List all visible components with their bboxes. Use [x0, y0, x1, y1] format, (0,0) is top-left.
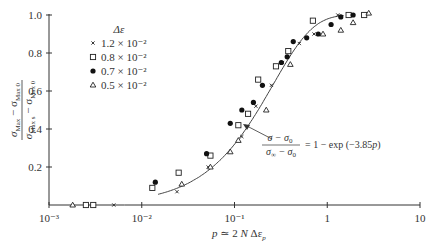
square-marker-icon: [150, 185, 155, 190]
annotation-denominator: σ∞ − σ0: [266, 146, 297, 159]
y-axis-title: σMax − σMax 0 σMax s − σMax 0: [7, 80, 37, 140]
annotation-numerator: σ − σ0: [267, 132, 293, 145]
square-marker-icon: [91, 202, 96, 207]
filled-circle-marker-icon: [228, 121, 233, 126]
series-cross: [112, 13, 352, 206]
square-marker-icon: [256, 77, 261, 82]
square-marker-icon: [236, 123, 241, 128]
x-tick-label: 10: [415, 212, 427, 224]
y-tick-label: 1.0: [28, 9, 42, 21]
y-axis-title-numerator: σMax − σMax 0: [7, 83, 22, 138]
legend-label: 0.5 × 10⁻²: [101, 79, 147, 91]
cross-marker-icon: [254, 105, 257, 108]
y-axis-title-denominator: σMax s − σMax 0: [22, 80, 37, 139]
square-marker-icon: [310, 18, 315, 23]
legend: Δε1.2 × 10⁻²0.8 × 10⁻²0.7 × 10⁻²0.5 × 10…: [90, 23, 147, 91]
square-marker-icon: [346, 12, 351, 17]
square-marker-icon: [90, 54, 95, 59]
square-marker-icon: [176, 170, 181, 175]
filled-circle-marker-icon: [90, 68, 95, 73]
x-tick-label: 10⁻²: [132, 212, 153, 224]
filled-circle-marker-icon: [351, 12, 356, 17]
legend-label: 1.2 × 10⁻²: [101, 37, 147, 49]
x-axis-title: p ≃ 2 N Δεp: [211, 227, 266, 242]
square-marker-icon: [83, 202, 88, 207]
square-marker-icon: [286, 49, 291, 54]
legend-entry: 0.7 × 10⁻²: [90, 65, 147, 77]
filled-circle-marker-icon: [239, 107, 244, 112]
filled-circle-marker-icon: [153, 180, 158, 185]
chart: 10⁻³10⁻²10⁻¹1100.20.40.60.81.0 Δε1.2 × 1…: [0, 0, 430, 244]
series-filled-circle: [153, 12, 356, 184]
legend-label: 0.8 × 10⁻²: [101, 51, 147, 63]
x-tick-label: 1: [325, 212, 331, 224]
filled-circle-marker-icon: [304, 35, 309, 40]
triangle-marker-icon: [350, 20, 356, 25]
filled-circle-marker-icon: [204, 151, 209, 156]
triangle-marker-icon: [90, 82, 96, 87]
cross-marker-icon: [312, 32, 315, 35]
x-tick-label: 10⁻¹: [224, 212, 244, 224]
legend-label: 0.7 × 10⁻²: [101, 65, 147, 77]
axes: 10⁻³10⁻²10⁻¹1100.20.40.60.81.0: [28, 9, 426, 224]
square-marker-icon: [273, 64, 278, 69]
filled-circle-marker-icon: [260, 83, 265, 88]
triangle-marker-icon: [320, 31, 326, 36]
filled-circle-marker-icon: [285, 54, 290, 59]
triangle-marker-icon: [288, 62, 294, 67]
triangle-marker-icon: [236, 138, 242, 143]
annotation-rhs: = 1 − exp (−3.85p): [305, 139, 381, 151]
filled-circle-marker-icon: [328, 22, 333, 27]
y-tick-label: 0.8: [28, 47, 42, 59]
triangle-marker-icon: [338, 27, 344, 32]
square-marker-icon: [245, 111, 250, 116]
fit-curve: [158, 16, 344, 195]
legend-title: Δε: [113, 23, 125, 35]
fit-annotation: σ − σ0 σ∞ − σ0 = 1 − exp (−3.85p): [243, 124, 381, 159]
filled-circle-marker-icon: [251, 100, 256, 105]
y-tick-label: 0.2: [28, 161, 42, 173]
triangle-marker-icon: [179, 181, 185, 186]
triangle-marker-icon: [263, 107, 269, 112]
filled-circle-marker-icon: [291, 39, 296, 44]
fit-line: [158, 16, 344, 195]
legend-entry: 0.8 × 10⁻²: [90, 51, 147, 63]
legend-entry: 1.2 × 10⁻²: [91, 37, 147, 49]
x-tick-label: 10⁻³: [39, 212, 60, 224]
cross-marker-icon: [91, 41, 94, 44]
cross-marker-icon: [175, 190, 178, 193]
legend-entry: 0.5 × 10⁻²: [90, 79, 147, 91]
filled-circle-marker-icon: [338, 14, 343, 19]
filled-circle-marker-icon: [279, 60, 284, 65]
